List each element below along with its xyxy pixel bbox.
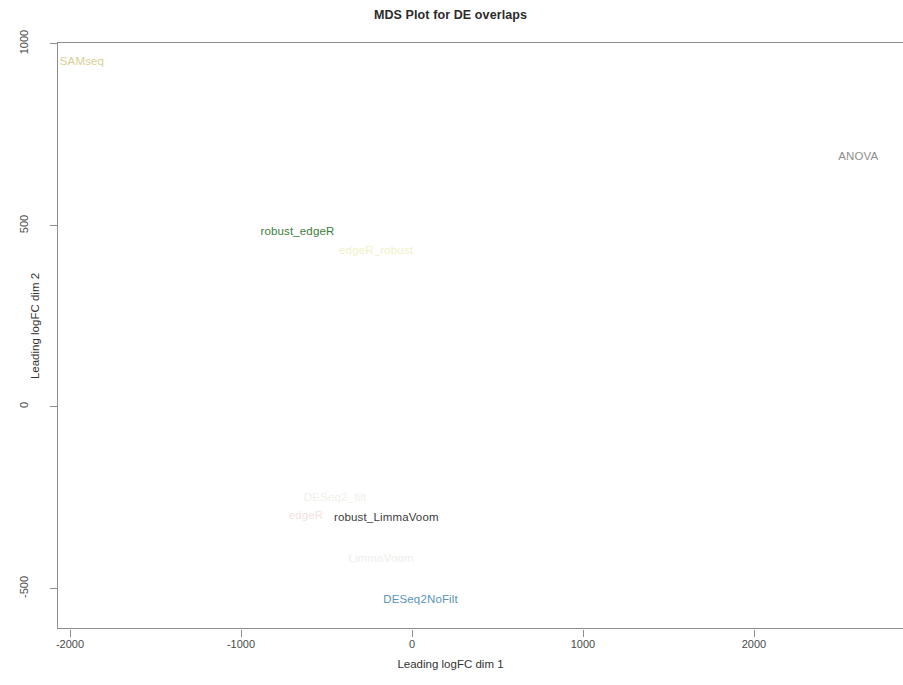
y-axis-tick xyxy=(50,43,57,44)
y-axis-tick xyxy=(50,225,57,226)
x-axis-tick-label: -1000 xyxy=(201,638,281,650)
data-point-label: DESeq2_filt xyxy=(304,491,366,503)
data-point-label: robust_LimmaVoom xyxy=(334,511,439,523)
x-axis-tick xyxy=(583,630,584,637)
data-point-label: ANOVA xyxy=(838,150,878,162)
data-point-label: robust_edgeR xyxy=(260,225,334,237)
x-axis-title: Leading logFC dim 1 xyxy=(0,658,901,670)
data-point-label: SAMseq xyxy=(60,55,104,67)
y-axis-tick xyxy=(50,588,57,589)
x-axis-tick xyxy=(70,630,71,637)
x-axis-tick xyxy=(241,630,242,637)
data-point-label: LimmaVoom xyxy=(349,552,414,564)
data-point-label: DESeq2NoFilt xyxy=(383,593,458,605)
data-point-label: edgeR xyxy=(289,509,324,521)
y-axis-tick xyxy=(50,406,57,407)
x-axis-tick xyxy=(412,630,413,637)
x-axis-tick-label: -2000 xyxy=(30,638,110,650)
y-axis-tick-label: 1000 xyxy=(18,20,30,64)
y-axis-tick-label: -500 xyxy=(18,565,30,609)
y-axis-title: Leading logFC dim 2 xyxy=(29,226,41,426)
x-axis-tick-label: 0 xyxy=(372,638,452,650)
plot-area-frame xyxy=(57,42,903,629)
page-title: MDS Plot for DE overlaps xyxy=(0,8,901,22)
data-point-label: edgeR_robust xyxy=(339,244,413,256)
x-axis-tick-label: 1000 xyxy=(543,638,623,650)
x-axis-tick xyxy=(754,630,755,637)
x-axis-tick-label: 2000 xyxy=(714,638,794,650)
